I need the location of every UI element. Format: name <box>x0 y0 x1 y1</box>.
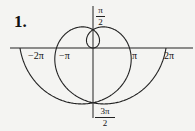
label-3pi-over-2: 3π 2 <box>95 107 115 128</box>
label-pi: π <box>132 51 137 61</box>
numerator: π <box>96 6 105 15</box>
label-2pi: 2π <box>164 51 174 61</box>
denominator: 2 <box>96 18 105 27</box>
label-neg-2pi: −2π <box>28 51 44 61</box>
label-neg-pi: −π <box>59 51 70 61</box>
numerator: 3π <box>95 107 115 116</box>
label-pi-over-2: π 2 <box>96 6 105 27</box>
denominator: 2 <box>95 119 115 128</box>
